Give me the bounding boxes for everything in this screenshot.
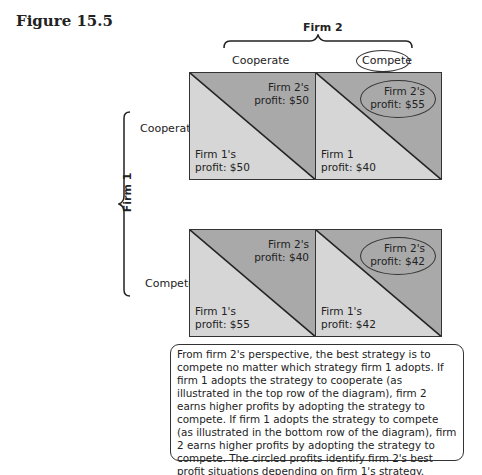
explanation-note: From firm 2's perspective, the best stra… (170, 344, 464, 461)
firm2-profit: Firm 2'sprofit: $50 (254, 81, 309, 107)
firm1-profit: Firm 1profit: $40 (321, 148, 376, 174)
firm2-profit: Firm 2'sprofit: $42 (370, 242, 425, 268)
payoff-cell-compete-coop: Firm 2'sprofit: $40 Firm 1'sprofit: $55 (189, 229, 316, 337)
payoff-cell-compete-compete: Firm 2'sprofit: $42 Firm 1'sprofit: $42 (315, 229, 442, 337)
column-label-compete: Compete (362, 54, 412, 67)
best-profit-circle: Firm 2'sprofit: $42 (360, 237, 436, 275)
firm2-brace-icon (222, 34, 414, 50)
firm1-profit: Firm 1'sprofit: $50 (195, 148, 250, 174)
firm1-profit: Firm 1'sprofit: $55 (195, 305, 250, 331)
payoff-cell-coop-compete: Firm 2'sprofit: $55 Firm 1profit: $40 (315, 72, 442, 180)
best-profit-circle: Firm 2'sprofit: $55 (360, 80, 436, 118)
firm1-label: Firm 1 (121, 173, 134, 213)
firm2-profit: Firm 2'sprofit: $40 (254, 238, 309, 264)
row-label-compete: Compete (145, 277, 195, 290)
figure-title: Figure 15.5 (16, 12, 113, 30)
payoff-cell-coop-coop: Firm 2'sprofit: $50 Firm 1'sprofit: $50 (189, 72, 316, 180)
column-label-cooperate: Cooperate (232, 54, 289, 67)
firm1-profit: Firm 1'sprofit: $42 (321, 305, 376, 331)
firm2-profit: Firm 2'sprofit: $55 (370, 85, 425, 111)
firm2-label: Firm 2 (303, 21, 343, 34)
